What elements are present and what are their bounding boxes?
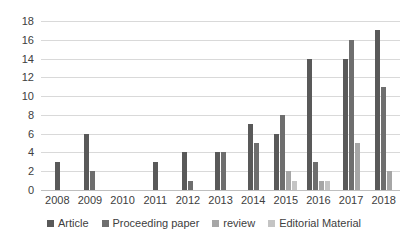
bar (153, 162, 158, 190)
x-axis-tick-label: 2011 (139, 192, 172, 209)
bar-group (302, 21, 335, 190)
x-axis: 2008200920102011201220132014201520162017… (41, 192, 400, 209)
bar (254, 143, 259, 190)
legend-label: Editorial Material (279, 218, 361, 229)
y-axis-tick-label: 0 (28, 185, 34, 196)
x-axis-tick-label: 2010 (106, 192, 139, 209)
bar (343, 59, 348, 190)
bar-group (172, 21, 205, 190)
bar (307, 59, 312, 190)
bar-group (269, 21, 302, 190)
bar (280, 115, 285, 190)
y-axis-tick-label: 4 (28, 147, 34, 158)
bar (286, 171, 291, 190)
legend-item[interactable]: Editorial Material (268, 218, 361, 229)
bar-chart: 024681012141618 200820092010201120122013… (0, 0, 408, 239)
bar (188, 181, 193, 190)
bar-groups (41, 21, 400, 190)
x-axis-tick-label: 2013 (204, 192, 237, 209)
bar-group (41, 21, 74, 190)
x-axis-tick-label: 2017 (335, 192, 368, 209)
bar-group (204, 21, 237, 190)
y-axis-tick-label: 12 (22, 72, 34, 83)
x-axis-tick-label: 2009 (74, 192, 107, 209)
y-axis-tick-label: 10 (22, 91, 34, 102)
bar-group (106, 21, 139, 190)
bar (274, 134, 279, 190)
x-axis-tick-label: 2016 (302, 192, 335, 209)
bar-group (237, 21, 270, 190)
legend-swatch-icon (47, 220, 54, 227)
plot-area (41, 21, 400, 190)
bar-group (74, 21, 107, 190)
bar-group (335, 21, 368, 190)
legend-label: review (223, 218, 255, 229)
bar (55, 162, 60, 190)
x-axis-tick-label: 2008 (41, 192, 74, 209)
bar (387, 171, 392, 190)
bar (90, 171, 95, 190)
x-axis-tick-label: 2018 (367, 192, 400, 209)
y-axis-tick-label: 16 (22, 34, 34, 45)
x-axis-tick-label: 2012 (172, 192, 205, 209)
x-axis-tick-label: 2014 (237, 192, 270, 209)
bar (355, 143, 360, 190)
bar (325, 181, 330, 190)
bar (375, 30, 380, 190)
legend-label: Proceeding paper (113, 218, 200, 229)
bar (381, 87, 386, 190)
legend-swatch-icon (102, 220, 109, 227)
gridline (41, 190, 400, 191)
y-axis-tick-label: 6 (28, 128, 34, 139)
legend-label: Article (58, 218, 89, 229)
bar (215, 152, 220, 190)
y-axis-tick-label: 8 (28, 109, 34, 120)
bar (248, 124, 253, 190)
bar (349, 40, 354, 190)
bar (221, 152, 226, 190)
y-axis-tick-label: 2 (28, 166, 34, 177)
x-axis-tick-label: 2015 (269, 192, 302, 209)
bar (292, 181, 297, 190)
bar (182, 152, 187, 190)
legend-item[interactable]: Article (47, 218, 89, 229)
bar-group (367, 21, 400, 190)
y-axis: 024681012141618 (0, 0, 41, 211)
legend-swatch-icon (212, 220, 219, 227)
legend-item[interactable]: Proceeding paper (102, 218, 200, 229)
chart-legend: ArticleProceeding paperreviewEditorial M… (0, 211, 408, 235)
legend-item[interactable]: review (212, 218, 255, 229)
y-axis-tick-label: 14 (22, 53, 34, 64)
legend-swatch-icon (268, 220, 275, 227)
y-axis-tick-label: 18 (22, 16, 34, 27)
bar (84, 134, 89, 190)
bar (313, 162, 318, 190)
bar (319, 181, 324, 190)
bar-group (139, 21, 172, 190)
